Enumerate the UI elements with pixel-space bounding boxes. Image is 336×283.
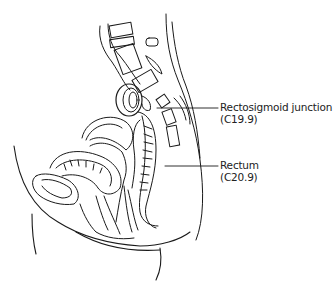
rectum-shape xyxy=(132,112,158,228)
label-rectosigmoid-code: (C19.9) xyxy=(220,113,332,125)
body-outline xyxy=(14,146,190,280)
label-rectosigmoid-name: Rectosigmoid junction xyxy=(220,101,332,113)
pelvic-organs xyxy=(33,117,138,239)
label-rectosigmoid-junction: Rectosigmoid junction (C19.9) xyxy=(220,101,332,125)
label-rectum: Rectum (C20.9) xyxy=(220,159,259,183)
label-rectum-code: (C20.9) xyxy=(220,171,259,183)
label-rectum-name: Rectum xyxy=(220,159,259,171)
pelvis-sagittal-illustration xyxy=(0,0,336,283)
sacrum-spine xyxy=(100,14,203,240)
